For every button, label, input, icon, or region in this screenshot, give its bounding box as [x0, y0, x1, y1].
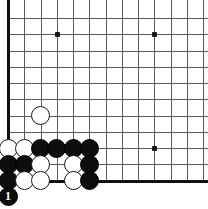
go-board: 1: [0, 0, 208, 209]
move-number-label: 1: [0, 187, 18, 206]
board-marker-layer: 1: [0, 0, 208, 209]
